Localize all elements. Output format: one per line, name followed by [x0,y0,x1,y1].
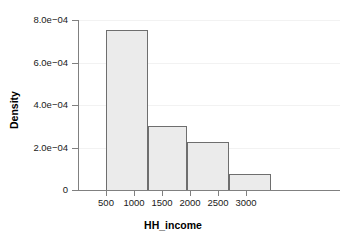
gridline-8e-04 [78,20,340,21]
x-tick-mark [134,190,135,196]
x-tick-mark [106,190,107,196]
y-tick-mark [72,63,78,64]
y-tick-label: 0 [22,185,68,195]
y-tick-label: 4.0e−04 [22,100,68,110]
y-axis-line [78,20,79,191]
x-tick-mark [162,190,163,196]
x-tick-mark [246,190,247,196]
histogram-chart: 8.0e−04 6.0e−04 4.0e−04 2.0e−04 0 500 10… [0,0,346,242]
y-tick-label: 6.0e−04 [22,58,68,68]
y-tick-label: 2.0e−04 [22,143,68,153]
histogram-bar [106,30,148,191]
y-tick-label: 8.0e−04 [22,15,68,25]
x-axis-line [78,190,340,191]
y-axis-title: Density [8,70,20,150]
y-tick-mark [72,190,78,191]
x-tick-label: 3000 [226,198,266,208]
x-tick-mark [190,190,191,196]
histogram-bar [229,174,271,191]
histogram-bar [148,126,187,191]
x-tick-mark [218,190,219,196]
histogram-bar [187,142,229,191]
y-tick-mark [72,105,78,106]
x-axis-title: HH_income [0,219,346,231]
y-tick-mark [72,20,78,21]
y-tick-mark [72,148,78,149]
